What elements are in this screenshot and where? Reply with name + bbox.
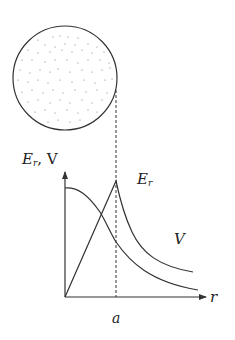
sphere-outline [13, 26, 117, 130]
sphere-field-potential-diagram: Er, V Er V r a [0, 0, 235, 340]
diagram-canvas [0, 0, 235, 340]
radius-tick-label: a [112, 311, 120, 325]
x-axis-label: r [210, 290, 217, 305]
potential-label: V [174, 232, 185, 247]
charged-sphere [13, 26, 117, 130]
y-axis-label: Er, V [22, 152, 58, 168]
electric-field-label: Er [137, 172, 152, 188]
